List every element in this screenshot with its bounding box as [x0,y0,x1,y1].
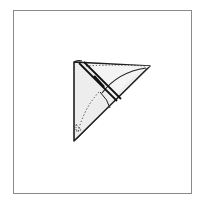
folded-triangle-illustration [0,0,208,208]
